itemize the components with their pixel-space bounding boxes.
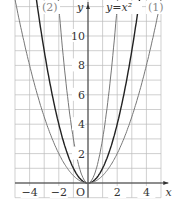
curve-label-y-x2: y=x² [105,1,132,14]
x-axis-label: x [165,186,172,199]
x-tick-label: −2 [51,186,67,199]
y-axis-label: y [76,1,84,14]
x-tick-label: −4 [21,186,37,199]
x-tick-label: 2 [114,186,121,199]
parabola-chart: −4−224246810Oxyy=x²(1)(2) [0,0,173,206]
chart-canvas: −4−224246810Oxyy=x²(1)(2) [0,0,173,206]
x-tick-label: 4 [143,186,150,199]
x-axis-arrow-icon [163,181,168,185]
y-tick-label: 10 [71,30,85,43]
y-tick-label: 4 [78,118,85,131]
y-tick-label: 8 [78,59,85,72]
y-tick-label: 6 [78,89,85,102]
curve-label-1: (1) [148,1,164,14]
curve-label-2: (2) [42,1,58,14]
y-tick-label: 2 [78,148,85,161]
origin-label: O [76,186,85,199]
